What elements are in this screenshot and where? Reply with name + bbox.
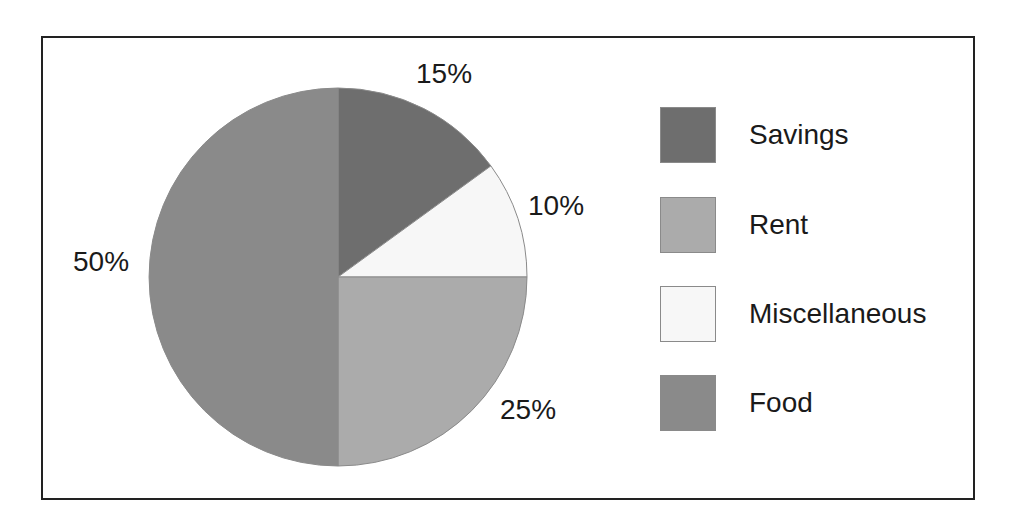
legend-label-miscellaneous: Miscellaneous xyxy=(749,286,926,342)
legend-item-rent: Rent xyxy=(660,197,808,253)
pie xyxy=(149,88,527,466)
legend-item-savings: Savings xyxy=(660,107,849,163)
legend-swatch-food xyxy=(660,375,716,431)
legend-label-food: Food xyxy=(749,375,813,431)
label-savings-pct: 15% xyxy=(416,58,472,89)
pie-chart: 15% 10% 25% 50% xyxy=(0,0,1015,532)
legend-swatch-miscellaneous xyxy=(660,286,716,342)
legend-label-rent: Rent xyxy=(749,197,808,253)
legend-label-savings: Savings xyxy=(749,107,849,163)
label-rent-pct: 25% xyxy=(500,394,556,425)
legend-swatch-rent xyxy=(660,197,716,253)
label-food-pct: 50% xyxy=(73,246,129,277)
legend-swatch-savings xyxy=(660,107,716,163)
legend-item-food: Food xyxy=(660,375,813,431)
legend-item-miscellaneous: Miscellaneous xyxy=(660,286,926,342)
slice-rent xyxy=(338,277,527,466)
label-miscellaneous-pct: 10% xyxy=(528,190,584,221)
slice-food xyxy=(149,88,338,466)
